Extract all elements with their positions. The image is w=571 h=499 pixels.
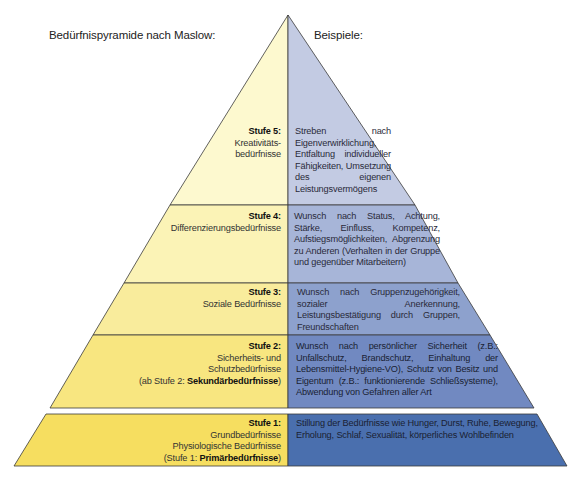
level-4-name-line-1: Differenzierungsbedürfnisse — [150, 223, 281, 235]
level-5-label: Stufe 5: Kreativitäts- bedürfnisse — [180, 126, 281, 161]
level-1-note-bold: Primärbedürfnisse — [199, 453, 278, 463]
level-5-stufe: Stufe 5: — [180, 126, 281, 138]
level-2-name-line-2: Schutzbedürfnisse — [100, 364, 281, 376]
level-3-name-line-1: Soziale Bedürfnisse — [150, 299, 281, 311]
level-5-name-line-2: bedürfnisse — [180, 149, 281, 161]
level-1-note-suffix: ) — [278, 453, 281, 463]
level-4-label: Stufe 4: Differenzierungsbedürfnisse — [150, 211, 281, 234]
level-2-note: (ab Stufe 2: Sekundärbedürfnisse) — [100, 376, 281, 388]
level-2-label: Stufe 2: Sicherheits- und Schutzbedürfni… — [100, 341, 281, 387]
level-2-name-line-1: Sicherheits- und — [100, 353, 281, 365]
level-2-note-prefix: (ab Stufe 2: — [139, 376, 187, 386]
level-1-name-line-1: Grundbedürfnisse — [100, 430, 281, 442]
level-1-label: Stufe 1: Grundbedürfnisse Physiologische… — [100, 418, 281, 464]
level-2-examples: Wunsch nach persönlicher Sicherheit (z.B… — [296, 341, 498, 399]
level-1-stufe: Stufe 1: — [100, 418, 281, 430]
level-1-examples: Stillung der Bedürfnisse wie Hunger, Dur… — [296, 418, 546, 441]
level-3-label: Stufe 3: Soziale Bedürfnisse — [150, 287, 281, 310]
level-3-examples: Wunsch nach Gruppenzugehörigkeit, sozial… — [297, 287, 460, 333]
examples-title: Beispiele: — [314, 29, 363, 41]
level-2-stufe: Stufe 2: — [100, 341, 281, 353]
pyramid-title: Bedürfnispyramide nach Maslow: — [49, 29, 215, 41]
level-2-note-bold: Sekundärbedürfnisse — [187, 376, 278, 386]
level-3-stufe: Stufe 3: — [150, 287, 281, 299]
level-4-examples: Wunsch nach Status, Achtung, Stärke, Ein… — [294, 211, 440, 269]
level-5-examples: Streben nach Eigenverwirklichung, Entfal… — [295, 126, 391, 196]
level-5-name-line-1: Kreativitäts- — [180, 138, 281, 150]
level-2-note-suffix: ) — [278, 376, 281, 386]
level-1-note-prefix: (Stufe 1: — [164, 453, 200, 463]
level-5-left — [170, 15, 288, 205]
level-4-stufe: Stufe 4: — [150, 211, 281, 223]
level-1-note: (Stufe 1: Primärbedürfnisse) — [100, 453, 281, 465]
level-1-name-line-2: Physiologische Bedürfnisse — [100, 441, 281, 453]
